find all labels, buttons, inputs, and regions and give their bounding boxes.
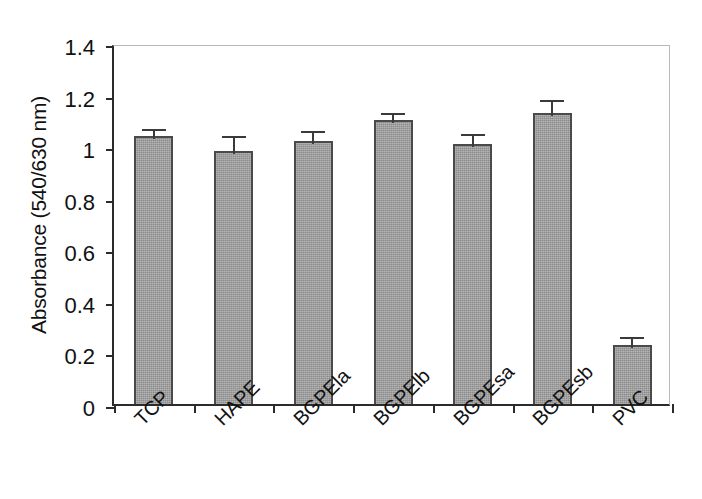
error-bar-cap — [301, 131, 325, 133]
y-axis-tick: 0 — [106, 407, 114, 409]
bar — [134, 136, 173, 404]
y-axis-tick: 1 — [106, 149, 114, 151]
y-axis-tick: 0.6 — [106, 252, 114, 254]
x-axis-tick — [114, 404, 116, 413]
error-bar-cap — [222, 136, 246, 138]
error-bar-stem — [551, 100, 553, 115]
error-bar-cap — [142, 129, 166, 131]
y-axis-tick-label: 1.4 — [64, 35, 95, 61]
x-axis-tick — [672, 404, 674, 413]
y-axis-tick-label: 0.4 — [64, 293, 95, 319]
bar — [533, 113, 572, 404]
x-axis-tick — [513, 404, 515, 413]
error-bar-cap — [381, 113, 405, 115]
y-axis-tick-label: 0 — [83, 396, 95, 422]
y-axis-title: Absorbance (540/630 nm) — [16, 0, 62, 430]
error-bar-cap — [620, 337, 644, 339]
plot-area: 00.20.40.60.811.21.4 — [112, 45, 670, 406]
error-bar-stem — [233, 136, 235, 154]
y-axis-tick: 1.4 — [106, 46, 114, 48]
bar — [453, 144, 492, 404]
bar — [294, 141, 333, 404]
y-axis-tick-label: 1 — [83, 138, 95, 164]
x-axis-tick — [194, 404, 196, 413]
y-axis-tick-label: 1.2 — [64, 87, 95, 113]
y-axis-tick: 0.2 — [106, 355, 114, 357]
x-axis-tick — [592, 404, 594, 413]
error-bar-cap — [461, 134, 485, 136]
bar — [374, 120, 413, 404]
y-axis-tick: 0.8 — [106, 201, 114, 203]
x-axis-tick — [433, 404, 435, 413]
y-axis-tick: 0.4 — [106, 304, 114, 306]
x-axis-tick — [273, 404, 275, 413]
y-axis-tick: 1.2 — [106, 98, 114, 100]
bar-chart-figure: Absorbance (540/630 nm) 00.20.40.60.811.… — [0, 0, 702, 499]
y-axis-tick-label: 0.2 — [64, 344, 95, 370]
y-axis-tick-label: 0.8 — [64, 190, 95, 216]
x-axis-tick — [353, 404, 355, 413]
y-axis-tick-label: 0.6 — [64, 241, 95, 267]
bar — [214, 151, 253, 404]
error-bar-cap — [540, 100, 564, 102]
